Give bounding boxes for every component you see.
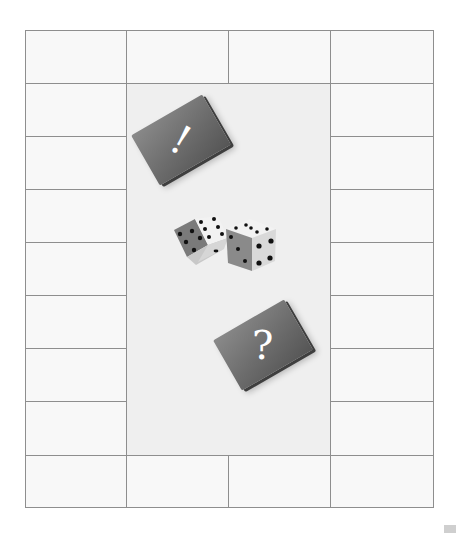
board-cell[interactable] [330,295,434,349]
board-cell[interactable] [25,401,127,456]
board-cell[interactable] [330,348,434,402]
exclamation-icon: ! [164,119,198,162]
board-cell[interactable] [25,242,127,296]
board-cell[interactable] [330,189,434,243]
board-cell[interactable] [330,30,434,84]
board-cell[interactable] [330,136,434,190]
board-cell[interactable] [330,242,434,296]
board-cell[interactable] [25,455,127,508]
resize-handle[interactable] [444,525,456,533]
board-cell[interactable] [228,455,331,508]
board-cell[interactable] [25,295,127,349]
board-cell[interactable] [25,189,127,243]
board-cell[interactable] [228,30,331,84]
board-cell[interactable] [330,401,434,456]
die-right[interactable] [220,215,280,277]
question-mark-icon: ? [252,325,273,365]
board-cell[interactable] [25,136,127,190]
board-cell[interactable] [25,83,127,137]
board-cell[interactable] [25,348,127,402]
board-cell[interactable] [126,30,229,84]
board-cell[interactable] [126,455,229,508]
board-cell[interactable] [25,30,127,84]
board-cell[interactable] [330,455,434,508]
board-cell[interactable] [330,83,434,137]
